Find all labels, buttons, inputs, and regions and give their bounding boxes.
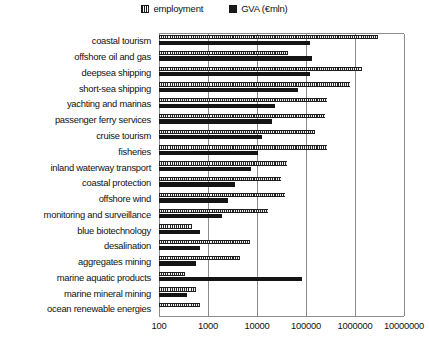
- chart-legend: employment GVA (€mln): [0, 3, 429, 14]
- y-axis-label: blue biotechnology: [0, 222, 155, 238]
- bar-gva: [159, 135, 262, 139]
- x-axis-tick-label: 1000000: [337, 320, 372, 331]
- bar-row: [159, 49, 404, 65]
- bar-employment: [159, 161, 287, 165]
- legend-label-gva: GVA (€mln): [241, 3, 287, 14]
- bar-employment: [159, 130, 315, 134]
- y-axis-label: deepsea shipping: [0, 65, 155, 81]
- y-axis-label: inland waterway transport: [0, 159, 155, 175]
- x-axis-tick-label: 100: [151, 320, 166, 331]
- y-axis-label: coastal protection: [0, 175, 155, 191]
- y-axis-label: aggregates mining: [0, 254, 155, 270]
- y-axis-label: cruise tourism: [0, 128, 155, 144]
- legend-item-employment: employment: [141, 3, 203, 14]
- bar-gva: [159, 261, 196, 265]
- y-axis-label: coastal tourism: [0, 33, 155, 49]
- bar-employment: [159, 287, 196, 291]
- y-axis-label: monitoring and surveillance: [0, 206, 155, 222]
- bar-row: [159, 128, 404, 144]
- x-axis-tick-label: 10000000: [384, 320, 424, 331]
- bar-gva: [159, 167, 251, 171]
- bar-row: [159, 222, 404, 238]
- bar-row: [159, 191, 404, 207]
- bar-row: [159, 159, 404, 175]
- bar-rows: [159, 33, 404, 317]
- legend-item-gva: GVA (€mln): [229, 3, 287, 14]
- bar-gva: [159, 230, 200, 234]
- bar-row: [159, 254, 404, 270]
- x-axis-tick-label: 1000: [198, 320, 218, 331]
- y-axis-label: marine aquatic products: [0, 269, 155, 285]
- bar-row: [159, 96, 404, 112]
- bar-gva: [159, 198, 228, 202]
- bar-employment: [159, 82, 350, 86]
- bar-row: [159, 301, 404, 317]
- gridline: [404, 34, 405, 316]
- y-axis-label: offshore oil and gas: [0, 49, 155, 65]
- y-axis-label: offshore wind: [0, 191, 155, 207]
- bar-gva: [159, 104, 275, 108]
- legend-label-employment: employment: [153, 3, 203, 14]
- y-axis-label: desalination: [0, 238, 155, 254]
- bar-gva: [159, 41, 310, 45]
- bar-employment: [159, 67, 362, 71]
- y-axis-label: marine mineral mining: [0, 285, 155, 301]
- bar-gva: [159, 277, 302, 281]
- y-axis-label: yachting and marinas: [0, 96, 155, 112]
- bar-employment: [159, 272, 185, 276]
- y-axis-label: ocean renewable energies: [0, 301, 155, 317]
- bar-employment: [159, 240, 250, 244]
- bar-employment: [159, 35, 378, 39]
- y-axis-label: short-sea shipping: [0, 80, 155, 96]
- bar-row: [159, 80, 404, 96]
- bar-row: [159, 143, 404, 159]
- legend-swatch-gva-icon: [229, 5, 237, 13]
- bar-row: [159, 238, 404, 254]
- bar-employment: [159, 51, 288, 55]
- x-axis-tick-label: 10000: [244, 320, 269, 331]
- bar-employment: [159, 177, 281, 181]
- bar-row: [159, 65, 404, 81]
- bar-employment: [159, 193, 285, 197]
- bar-row: [159, 285, 404, 301]
- bar-gva: [159, 246, 200, 250]
- bar-gva: [159, 182, 235, 186]
- bar-gva: [159, 56, 312, 60]
- bar-row: [159, 269, 404, 285]
- bar-gva: [159, 214, 222, 218]
- bar-employment: [159, 224, 192, 228]
- y-axis-label: fisheries: [0, 143, 155, 159]
- x-axis-labels: 100100010000100000100000010000000: [0, 320, 429, 340]
- bar-gva: [159, 119, 272, 123]
- bar-employment: [159, 209, 268, 213]
- bar-employment: [159, 303, 200, 307]
- bar-gva: [159, 88, 298, 92]
- bar-employment: [159, 256, 240, 260]
- x-axis-tick-label: 100000: [291, 320, 321, 331]
- y-axis-labels: coastal tourismoffshore oil and gasdeeps…: [0, 33, 155, 317]
- bar-gva: [159, 151, 258, 155]
- bar-row: [159, 206, 404, 222]
- bar-row: [159, 33, 404, 49]
- bar-gva: [159, 293, 187, 297]
- bar-row: [159, 112, 404, 128]
- legend-swatch-employment-icon: [141, 5, 149, 13]
- bar-employment: [159, 98, 327, 102]
- bar-row: [159, 175, 404, 191]
- bar-gva: [159, 72, 310, 76]
- y-axis-label: passenger ferry services: [0, 112, 155, 128]
- chart-container: employment GVA (€mln) coastal tourismoff…: [0, 0, 429, 344]
- bar-employment: [159, 145, 327, 149]
- bar-employment: [159, 114, 325, 118]
